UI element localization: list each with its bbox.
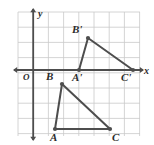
y-axis-label: y [37,8,43,19]
x-axis-label: x [143,65,149,76]
vertex-dot-B [60,82,64,86]
vertex-label-C: C [112,131,120,143]
vertex-label-B-prime: B' [71,23,82,35]
vertex-label-C-prime: C' [121,71,131,83]
vertex-label-A-prime: A' [71,71,82,83]
coordinate-grid-figure: xyO ABCA'B'C' [0,0,154,145]
vertex-dot-B-prime [86,36,90,40]
vertex-label-B: B [45,70,53,82]
vertex-dot-C-prime [131,68,135,72]
vertex-label-A: A [49,131,57,143]
origin-label: O [23,72,30,82]
coordinate-plane-svg: xyO ABCA'B'C' [0,0,154,145]
